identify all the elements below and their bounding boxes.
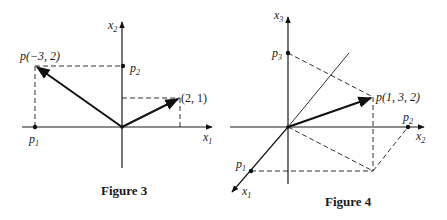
figure-3-caption: Figure 3 xyxy=(101,183,148,198)
figures-canvas: p(−3, 2) (2, 1) p2 p1 x2 x1 Figure 3 x3 … xyxy=(0,0,447,220)
x2-axis-label: x2 xyxy=(107,18,117,34)
p3-label: p3 xyxy=(271,46,282,62)
p2-dot xyxy=(121,64,125,68)
p1-label: p1 xyxy=(28,132,39,148)
projection-line xyxy=(373,127,408,171)
projection-line xyxy=(288,127,373,171)
vector-p xyxy=(37,67,122,127)
figure-4: x3 p3 p(1, 3, 2) p2 x2 p1 x1 Figure 4 xyxy=(230,8,425,209)
point-p-label: p(1, 3, 2) xyxy=(375,90,420,104)
x1-axis-label: x1 xyxy=(202,130,212,146)
origin-dot xyxy=(286,125,290,129)
figure-4-caption: Figure 4 xyxy=(325,194,372,209)
x3-axis-label: x3 xyxy=(273,8,283,24)
p2-label: p2 xyxy=(402,110,413,126)
point-2-1-label: (2, 1) xyxy=(181,91,207,105)
figure-3: p(−3, 2) (2, 1) p2 p1 x2 x1 Figure 3 xyxy=(19,18,212,198)
point-p-label: p(−3, 2) xyxy=(19,49,60,63)
p1-dot xyxy=(33,125,37,129)
x1-axis-label: x1 xyxy=(241,184,251,200)
origin-dot xyxy=(120,125,124,129)
p1-dot xyxy=(249,169,253,173)
vector-2-1 xyxy=(122,99,178,127)
p1-label: p1 xyxy=(235,157,246,173)
p3-dot xyxy=(286,51,290,55)
x2-axis-label: x2 xyxy=(415,129,425,145)
p2-label: p2 xyxy=(129,61,140,77)
